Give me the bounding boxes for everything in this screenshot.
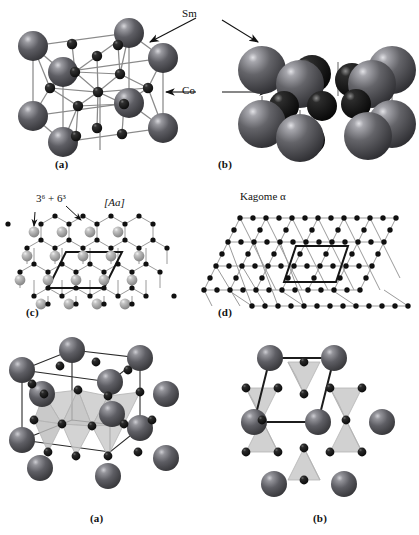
panel-d-kagome-net xyxy=(201,215,410,308)
kagome-label: Kagome α xyxy=(240,190,286,202)
arrow-to-sm-site xyxy=(34,212,35,226)
row2-panels xyxy=(0,186,419,316)
sm-sphere xyxy=(276,114,324,162)
row1-panels xyxy=(0,0,419,175)
sm-sphere xyxy=(344,112,392,160)
caption-row3-b: (b) xyxy=(313,512,327,524)
caption-row1-a: (a) xyxy=(55,158,68,170)
panel-bottom-a-polyhedra xyxy=(9,337,179,489)
co-sphere xyxy=(307,91,337,121)
co-label: Co xyxy=(182,84,195,96)
panel-b-space-filling xyxy=(238,46,416,162)
caption-row2-d: (d) xyxy=(218,306,232,318)
vertex-notation-label: 3⁶ + 6³ xyxy=(36,192,66,204)
panel-a-co-atoms xyxy=(45,39,153,141)
caption-row1-b: (b) xyxy=(218,158,232,170)
sm-label: Sm xyxy=(182,7,197,19)
sm-arrow-right xyxy=(222,20,258,42)
row3-panels xyxy=(0,332,419,532)
stacking-label: [Aa] xyxy=(104,196,125,208)
sm-arrow-left xyxy=(150,18,196,42)
crystal-structure-figure: Sm Co (a) (b) xyxy=(0,0,419,535)
arrow-to-co-site xyxy=(66,206,81,220)
caption-row3-a: (a) xyxy=(90,512,103,524)
panel-c-honeycomb-net xyxy=(5,206,176,309)
panel-bottom-b-projection xyxy=(241,345,395,497)
caption-row2-c: (c) xyxy=(26,306,39,318)
